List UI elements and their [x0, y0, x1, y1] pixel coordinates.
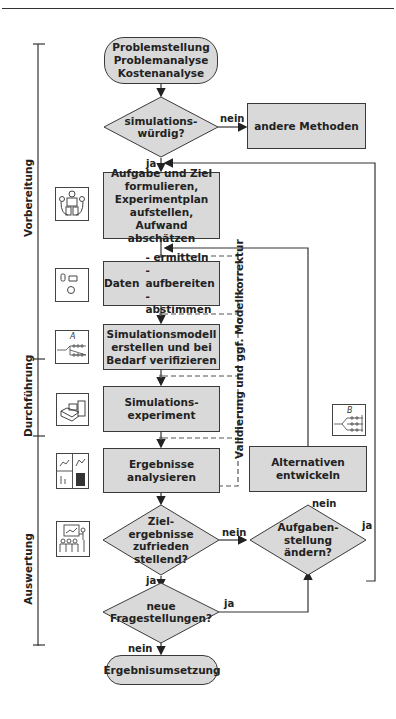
start-line-3: Kostenanalyse	[118, 67, 205, 80]
node-aufgabe-ziel: Aufgabe und Ziel formulieren, Experiment…	[103, 172, 220, 239]
decision-simulationswuerdig: simulations- würdig?	[114, 110, 208, 144]
decision-neue-fragestellungen: neue Fragestellungen?	[116, 597, 206, 627]
modell-line-1: Simulationsmodell	[107, 328, 217, 341]
edge-label-nein: nein	[220, 113, 244, 124]
neue-line-1: neue	[146, 600, 175, 613]
edge-label-ja-aufgabe: ja	[362, 520, 372, 531]
daten-item-aufbereiten: - aufbereiten	[145, 264, 219, 290]
model-a-icon: A	[55, 330, 89, 364]
edge-label-nein-aufgabe: nein	[312, 498, 336, 509]
aufgabe-line-4: aufstellen, Aufwand	[104, 206, 219, 232]
edge-label-nein-neue: nein	[128, 643, 152, 654]
model-b-icon: B	[332, 404, 366, 436]
node-alternativen-entwickeln: Alternativen entwickeln	[249, 446, 367, 492]
decision-line-1: simulations-	[125, 115, 198, 128]
start-node-problemstellung: Problemstellung Problemanalyse Kostenana…	[104, 37, 218, 84]
aufgabenstellung-line-3: ändern?	[284, 546, 332, 559]
ziel-line-1: Ziel-	[148, 515, 174, 528]
edge-label-ja-neue: ja	[224, 598, 234, 609]
feedback-label-validierung: Validierung und ggf. Modellkorrektur	[233, 279, 245, 459]
ziel-line-2: ergebnisse	[128, 528, 193, 541]
aufgabenstellung-line-1: Aufgaben-	[277, 521, 338, 534]
experiment-line-1: Simulations-	[124, 396, 198, 409]
node-daten: Daten - ermitteln - aufbereiten - abstim…	[103, 261, 220, 306]
node-simulationsmodell: Simulationsmodell erstellen und bei Beda…	[103, 324, 220, 370]
phase-label-vorbereitung: Vorbereitung	[22, 158, 34, 238]
decision-line-2: würdig?	[137, 127, 184, 140]
team-meeting-icon	[55, 187, 89, 221]
ergebnisse-line-1: Ergebnisse	[129, 458, 194, 471]
experiment-line-2: experiment	[128, 409, 196, 422]
model-a-letter: A	[70, 332, 75, 341]
model-b-letter: B	[347, 406, 353, 415]
modell-line-2: erstellen und bei	[111, 341, 212, 354]
alternativen-line-1: Alternativen	[271, 456, 345, 469]
data-storage-icon	[55, 268, 89, 302]
neue-line-2: Fragestellungen?	[110, 612, 212, 625]
ergebnisse-line-2: analysieren	[127, 471, 196, 484]
computer-workstation-icon	[56, 393, 89, 426]
daten-label: Daten	[104, 277, 139, 290]
edge-label-ja-ziel: ja	[146, 575, 156, 586]
phase-label-auswertung: Auswertung	[22, 529, 34, 609]
aufgabenstellung-line-2: stellung	[284, 534, 332, 547]
decision-zielergebnisse: Ziel- ergebnisse zufrieden stellend?	[118, 515, 204, 565]
modell-line-3: Bedarf verifizieren	[106, 354, 216, 367]
start-line-2: Problemanalyse	[114, 54, 209, 67]
phase-label-durchfuehrung: Durchführung	[22, 357, 34, 437]
start-line-1: Problemstellung	[112, 41, 209, 54]
decision-aufgabenstellung: Aufgaben- stellung ändern?	[266, 520, 350, 560]
presentation-audience-icon	[56, 521, 90, 557]
end-node-ergebnisumsetzung: Ergebnisumsetzung	[106, 655, 218, 685]
edge-label-nein-ziel: nein	[222, 527, 246, 538]
aufgabe-line-5: abschätzen	[128, 232, 195, 245]
ziel-line-4: stellend?	[134, 553, 188, 566]
node-ergebnisse-analysieren: Ergebnisse analysieren	[103, 448, 220, 493]
aufgabe-line-1: Aufgabe und Ziel	[111, 167, 212, 180]
daten-item-abstimmen: - abstimmen	[145, 290, 219, 316]
analysis-charts-icon	[56, 453, 89, 489]
ziel-line-3: zufrieden	[133, 540, 189, 553]
alternativen-line-2: entwickeln	[276, 469, 340, 482]
aufgabe-line-2: formulieren,	[125, 180, 198, 193]
daten-item-ermitteln: - ermitteln	[145, 251, 219, 264]
node-andere-methoden: andere Methoden	[247, 103, 366, 149]
aufgabe-line-3: Experimentplan	[115, 193, 209, 206]
node-simulationsexperiment: Simulations- experiment	[103, 386, 220, 432]
